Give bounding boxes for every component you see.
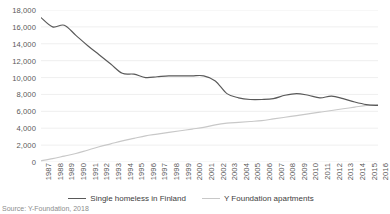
x-tick-label: 1996	[149, 163, 158, 180]
x-tick-label: 2010	[311, 163, 320, 180]
x-tick-label: 2006	[265, 163, 274, 180]
legend-item[interactable]: Single homeless in Finland	[68, 194, 186, 203]
y-tick-label: 2,000	[16, 141, 36, 150]
x-tick-label: 2000	[195, 163, 204, 180]
x-tick-label: 1989	[67, 163, 76, 180]
x-tick-label: 2004	[242, 163, 251, 180]
x-tick-label: 2014	[358, 163, 367, 180]
x-tick-label: 1997	[160, 163, 169, 180]
x-tick-label: 1999	[184, 163, 193, 180]
legend-label: Single homeless in Finland	[90, 194, 186, 203]
x-tick-label: 1987	[44, 163, 53, 180]
legend-item[interactable]: Y Foundation apartments	[202, 194, 314, 203]
x-tick-label: 2005	[253, 163, 262, 180]
x-tick-label: 1990	[79, 163, 88, 180]
x-tick-label: 2012	[335, 163, 344, 180]
y-tick-label: 4,000	[16, 124, 36, 133]
x-tick-label: 1994	[126, 163, 135, 180]
x-tick-label: 2013	[346, 163, 355, 180]
x-tick-label: 2011	[323, 163, 332, 180]
y-tick-label: 0	[32, 158, 36, 167]
x-tick-label: 2015	[370, 163, 379, 180]
legend-label: Y Foundation apartments	[224, 194, 314, 203]
x-tick-label: 2008	[288, 163, 297, 180]
legend-line-icon	[68, 198, 86, 199]
y-tick-label: 6,000	[16, 107, 36, 116]
plot-svg	[41, 10, 378, 162]
y-tick-label: 10,000	[12, 73, 36, 82]
x-tick-label: 2007	[277, 163, 286, 180]
y-tick-label: 14,000	[12, 39, 36, 48]
y-tick-label: 8,000	[16, 90, 36, 99]
x-tick-label: 1991	[91, 163, 100, 180]
series-line	[41, 18, 378, 106]
y-tick-label: 18,000	[12, 6, 36, 15]
x-tick-label: 2003	[230, 163, 239, 180]
legend-line-icon	[202, 198, 220, 199]
x-tick-label: 2002	[219, 163, 228, 180]
x-tick-label: 1995	[137, 163, 146, 180]
x-tick-label: 2009	[300, 163, 309, 180]
x-tick-label: 1988	[56, 163, 65, 180]
y-tick-label: 12,000	[12, 56, 36, 65]
chart-legend: Single homeless in FinlandY Foundation a…	[0, 192, 382, 204]
y-tick-label: 16,000	[12, 22, 36, 31]
plot-area	[41, 10, 378, 162]
x-tick-label: 1993	[114, 163, 123, 180]
x-axis: 1987198819891990199119921993199419951996…	[41, 163, 378, 191]
x-tick-label: 2016	[381, 163, 390, 180]
x-tick-label: 1992	[102, 163, 111, 180]
x-tick-label: 1998	[172, 163, 181, 180]
x-tick-label: 2001	[207, 163, 216, 180]
series-line	[41, 105, 378, 161]
y-axis: 18,00016,00014,00012,00010,0008,0006,000…	[0, 10, 38, 162]
source-note: Source: Y-Foundation, 2018	[2, 205, 89, 212]
